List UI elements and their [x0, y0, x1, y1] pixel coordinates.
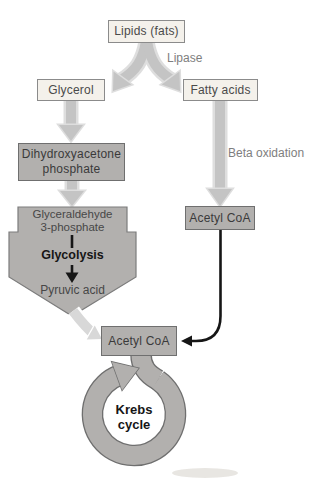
krebs-entry-neck: [141, 354, 158, 380]
node-lipids: Lipids (fats): [108, 20, 185, 43]
node-acetyl-coa-right: Acetyl CoA: [185, 206, 255, 230]
lipid-metabolism-diagram: Lipids (fats) Glycerol Fatty acids Dihyd…: [0, 0, 313, 480]
beta-oxidation-label: Beta oxidation: [228, 146, 304, 160]
print-smudge: [172, 468, 238, 478]
node-glycerol-label: Glycerol: [48, 84, 94, 97]
node-glycerol: Glycerol: [37, 79, 105, 101]
node-fatty-acids-label: Fatty acids: [190, 84, 250, 97]
node-dhap-label: Dihydroxyacetone phosphate: [22, 147, 121, 177]
node-dhap: Dihydroxyacetone phosphate: [18, 143, 125, 181]
node-acetyl-coa-right-label: Acetyl CoA: [189, 212, 250, 225]
node-acetyl-coa-center-label: Acetyl CoA: [108, 335, 169, 348]
node-acetyl-coa-center: Acetyl CoA: [101, 326, 177, 356]
node-lipids-label: Lipids (fats): [114, 25, 179, 38]
node-fatty-acids: Fatty acids: [183, 79, 258, 101]
acetylcoa-right-to-center-connector: [181, 230, 221, 347]
pyruvic-acid-label: Pyruvic acid: [18, 284, 127, 297]
node-g3p-label: Glyceraldehyde 3-phosphate: [18, 208, 127, 234]
lipase-fork-arrow: [104, 41, 189, 97]
glycolysis-label: Glycolysis: [18, 248, 127, 262]
krebs-cycle-label: Krebs cycle: [94, 402, 174, 432]
dhap-to-g3p-arrow: [60, 180, 84, 206]
lipase-label: Lipase: [167, 51, 202, 65]
glycerol-to-dhap-arrow: [59, 100, 83, 141]
